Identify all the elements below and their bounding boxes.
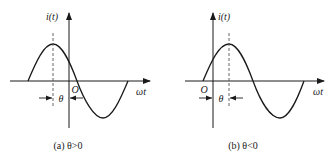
caption: (b) θ<0 [228,140,258,152]
diagram-canvas: i(t) ωt O θ (a) θ>0 i(t) ωt O θ (b) θ<0 [0,0,334,163]
origin-label: O [200,84,207,95]
theta-label: θ [59,93,64,104]
caption: (a) θ>0 [53,140,82,152]
panel-b: i(t) ωt O θ (b) θ<0 [185,11,324,152]
theta-label: θ [219,93,224,104]
y-axis-label: i(t) [218,11,231,23]
panel-a: i(t) ωt O θ (a) θ>0 [10,11,150,152]
origin-label: O [71,84,78,95]
x-axis-label: ωt [136,86,146,97]
x-axis-label: ωt [313,86,323,97]
y-axis-label: i(t) [46,11,59,23]
